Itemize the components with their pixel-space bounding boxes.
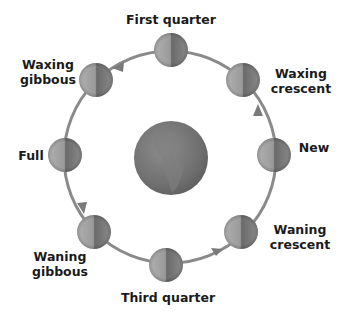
label-full: Full: [14, 148, 48, 163]
moon-full: [48, 138, 82, 172]
label-waning-gibbous: Waning gibbous: [30, 249, 90, 279]
moon-waxing-crescent: [226, 63, 260, 97]
moon-waning-crescent: [224, 215, 258, 249]
label-line: gibbous: [18, 72, 78, 87]
label-line: Waning: [267, 222, 333, 237]
moon-new: [257, 138, 291, 172]
label-new: New: [297, 140, 331, 155]
label-third-quarter: Third quarter: [120, 290, 216, 305]
label-waning-crescent: Waning crescent: [267, 222, 333, 252]
moon-phases-diagram: First quarter Waxing crescent New Waning…: [0, 0, 342, 316]
earth: [134, 121, 208, 195]
label-waxing-crescent: Waxing crescent: [266, 66, 336, 96]
moon-waxing-gibbous: [79, 63, 113, 97]
label-line: Waning: [30, 249, 90, 264]
label-line: Waxing: [18, 57, 78, 72]
moon-waning-gibbous: [77, 215, 111, 249]
label-line: gibbous: [30, 264, 90, 279]
label-line: crescent: [267, 237, 333, 252]
label-line: crescent: [266, 81, 336, 96]
label-waxing-gibbous: Waxing gibbous: [18, 57, 78, 87]
label-first-quarter: First quarter: [125, 12, 217, 27]
moon-third-quarter: [149, 248, 183, 282]
label-line: Waxing: [266, 66, 336, 81]
moon-first-quarter: [154, 33, 188, 67]
